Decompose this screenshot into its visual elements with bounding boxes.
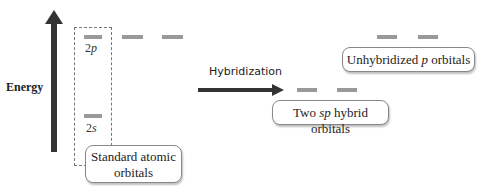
hybridization-arrow-head-icon [272, 84, 284, 96]
orbital-2p-line-2 [122, 35, 143, 39]
unhybridized-p-orbital-line-1 [377, 35, 397, 39]
unhybridized-p-orbitals-caption: Unhybridized p orbitals [342, 47, 475, 72]
sp-hybrid-orbitals-caption: Two sp hybrid orbitals [272, 100, 389, 125]
orbital-2s-label: 2s [86, 121, 97, 136]
orbital-2s-line [84, 114, 102, 118]
energy-axis-arrow-head-icon [45, 10, 63, 24]
sp-hybrid-orbital-line-2 [337, 88, 357, 92]
energy-axis-label: Energy [6, 80, 43, 95]
orbital-2p-line-1 [84, 35, 102, 39]
unhybridized-p-orbital-line-2 [418, 35, 438, 39]
orbital-2p-label: 2p [85, 41, 97, 56]
sp-hybrid-orbital-line-1 [297, 88, 317, 92]
orbital-2p-line-3 [162, 35, 183, 39]
energy-axis-arrow-shaft [51, 22, 57, 152]
hybridization-arrow-shaft [198, 88, 274, 92]
hybridization-label: Hybridization [209, 65, 282, 78]
standard-orbitals-caption: Standard atomic orbitals [85, 145, 182, 183]
